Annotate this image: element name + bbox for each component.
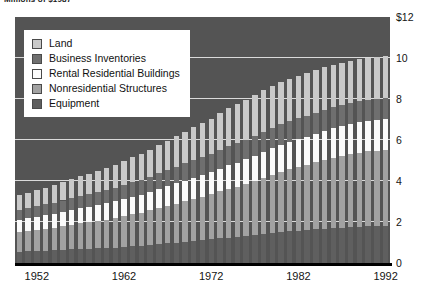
bar-segment [104,168,109,190]
bar-segment [383,119,388,150]
bar-segment [78,196,83,208]
bar-segment [86,207,91,223]
bar-segment [217,113,222,150]
bar-segment [261,90,266,132]
bar-segment [34,206,39,216]
bar-1982 [296,76,301,263]
bar-segment [226,165,231,188]
bar-segment [174,183,179,203]
bar-segment [287,169,292,231]
bar-segment [374,57,379,99]
bar-1980 [278,82,283,263]
bar-segment [191,241,196,263]
bar-1977 [252,95,257,263]
bar-segment [348,61,353,103]
bar-segment [365,58,370,100]
bar-segment [287,231,292,263]
bar-segment [339,105,344,126]
bar-segment [182,201,187,242]
bar-segment [383,150,388,226]
bar-segment [287,121,292,142]
bar-segment [121,199,126,216]
bar-segment [86,249,91,263]
bar-segment [147,210,152,245]
bar-segment [235,163,240,187]
bar-segment [17,232,22,251]
bar-segment [209,154,214,172]
bar-segment [147,192,152,210]
bar-segment [200,157,205,175]
bar-segment [374,120,379,151]
bar-segment [156,244,161,263]
bar-segment [270,86,275,128]
bar-segment [147,177,152,192]
bar-segment [348,124,353,154]
bar-segment [226,146,231,165]
bar-segment [313,134,318,162]
bar-segment [217,150,222,169]
bar-1963 [130,157,135,263]
x-tick-label: 1952 [25,270,49,282]
legend-item-rental_residential: Rental Residential Buildings [32,66,180,81]
bar-segment [322,160,327,229]
bar-segment [296,167,301,231]
bar-segment [60,212,65,226]
x-axis-line [15,263,392,266]
legend-swatch-icon [32,84,42,94]
legend-swatch-icon [32,69,42,79]
bar-1973 [217,113,222,263]
bar-1965 [147,150,152,263]
bar-segment [252,181,257,235]
bar-segment [200,175,205,197]
bar-segment [383,226,388,263]
bar-1957 [78,176,83,263]
bar-segment [95,192,100,205]
bar-segment [209,239,214,263]
bar-segment [60,201,65,212]
bar-1976 [243,100,248,263]
bar-segment [60,250,65,263]
bar-segment [25,193,30,208]
bar-segment [34,217,39,230]
x-tick-label: 1982 [286,270,310,282]
bar-segment [200,123,205,157]
y-tick-label: 0 [396,257,402,269]
bar-segment [174,204,179,243]
bar-segment [113,188,118,202]
y-tick-label: 8 [396,93,402,105]
bar-segment [95,221,100,248]
bar-segment [313,113,318,134]
bar-segment [34,230,39,251]
bar-segment [52,203,57,214]
bar-1971 [200,123,205,263]
bar-segment [43,188,48,205]
bar-segment [174,167,179,184]
bar-segment [52,185,57,202]
bar-1956 [69,179,74,263]
bar-segment [95,171,100,192]
bar-segment [139,195,144,213]
bar-segment [130,197,135,215]
bar-segment [69,210,74,225]
bar-1974 [226,108,231,263]
bar-segment [113,165,118,188]
bar-segment [331,107,336,128]
bar-segment [69,179,74,198]
bar-segment [296,139,301,167]
bar-segment [165,243,170,263]
bar-segment [287,79,292,121]
bar-1992 [383,56,388,263]
bar-1983 [304,73,309,263]
bar-segment [217,191,222,238]
bar-segment [52,228,57,251]
bar-segment [209,119,214,154]
bar-segment [304,165,309,231]
bar-segment [121,216,126,247]
bar-1988 [348,61,353,263]
bar-1958 [86,174,91,263]
bar-segment [69,225,74,250]
bar-segment [34,190,39,206]
bar-segment [217,238,222,263]
bar-segment [139,180,144,195]
bar-segment [86,222,91,248]
